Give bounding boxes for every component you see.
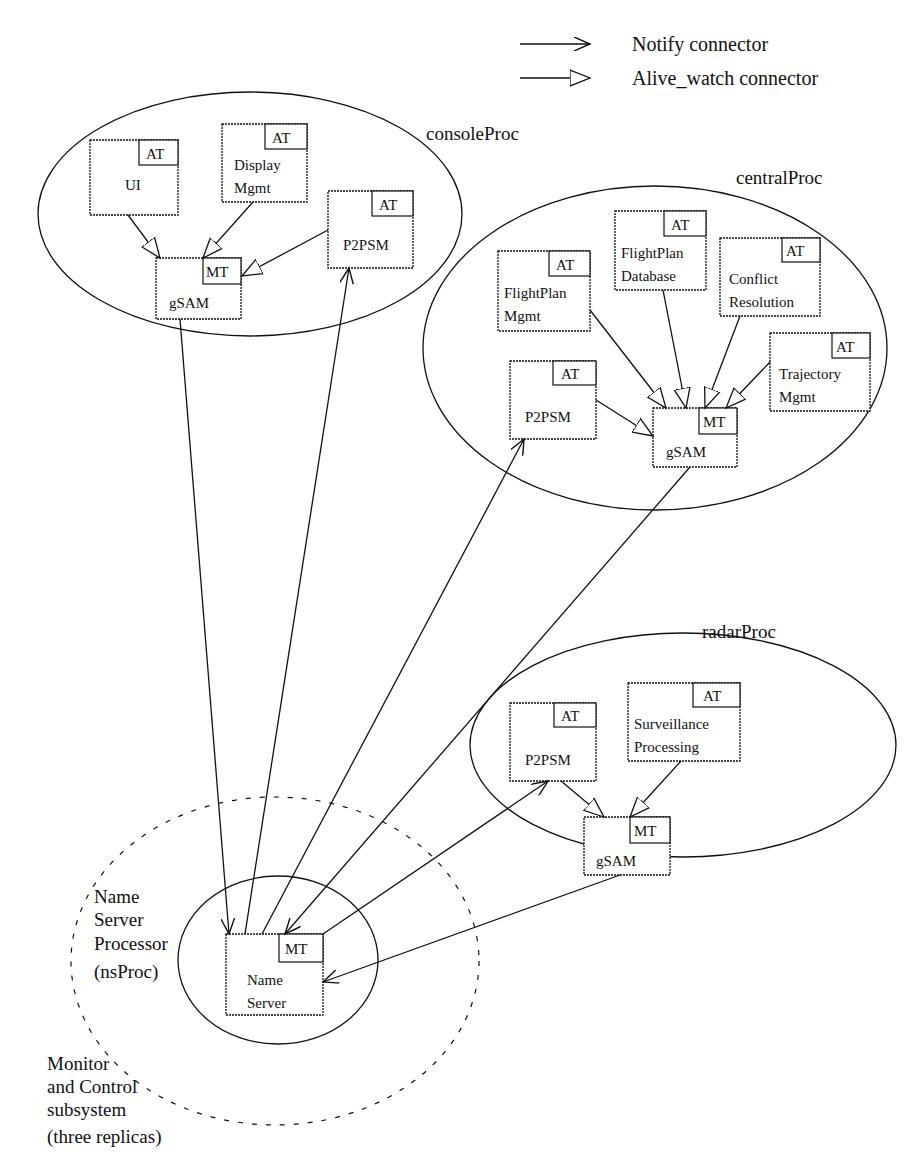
svg-text:UI: UI	[125, 177, 141, 193]
legend-alive-watch-label: Alive_watch connector	[632, 67, 818, 89]
radar-proc-label: radarProc	[702, 621, 776, 642]
svg-text:Monitor: Monitor	[47, 1053, 110, 1074]
svg-text:P2PSM: P2PSM	[525, 409, 571, 425]
svg-text:FlightPlan: FlightPlan	[621, 245, 684, 261]
svg-text:and Control: and Control	[47, 1076, 137, 1097]
svg-text:Name: Name	[247, 972, 283, 988]
central-trajectory-mgmt-component: AT Trajectory Mgmt	[770, 333, 870, 411]
svg-text:Name: Name	[94, 886, 139, 907]
svg-text:AT: AT	[561, 708, 579, 724]
legend-notify-label: Notify connector	[632, 33, 768, 56]
svg-text:gSAM: gSAM	[596, 853, 636, 869]
svg-text:AT: AT	[561, 366, 579, 382]
console-ui-component: AT UI	[90, 140, 178, 215]
central-p2psm-component: AT P2PSM	[510, 361, 596, 439]
svg-text:gSAM: gSAM	[666, 444, 706, 460]
subsystem-label: Monitor and Control subsystem (three rep…	[47, 1053, 161, 1148]
svg-text:gSAM: gSAM	[169, 295, 209, 311]
svg-text:Resolution: Resolution	[729, 294, 795, 310]
svg-text:(nsProc): (nsProc)	[94, 961, 158, 983]
console-gsam-component: MT gSAM	[156, 258, 241, 319]
svg-text:Server: Server	[94, 909, 144, 930]
svg-text:Mgmt: Mgmt	[779, 389, 817, 405]
svg-text:AT: AT	[146, 146, 164, 162]
architecture-diagram: Notify connector Alive_watch connector c…	[0, 0, 921, 1169]
svg-text:Database: Database	[621, 268, 676, 284]
central-gsam-component: MT gSAM	[653, 408, 737, 467]
svg-text:Conflict: Conflict	[729, 271, 779, 287]
svg-text:Processing: Processing	[634, 739, 699, 755]
svg-text:Trajectory: Trajectory	[779, 366, 841, 382]
central-proc-label: centralProc	[736, 167, 823, 188]
name-server-component: MT Name Server	[226, 934, 323, 1015]
svg-text:Mgmt: Mgmt	[234, 180, 272, 196]
svg-text:AT: AT	[556, 257, 574, 273]
svg-text:Mgmt: Mgmt	[504, 308, 542, 324]
console-p2psm-component: AT P2PSM	[328, 191, 413, 268]
legend: Notify connector Alive_watch connector	[520, 33, 818, 89]
svg-text:AT: AT	[671, 217, 689, 233]
svg-text:AT: AT	[379, 197, 397, 213]
svg-text:P2PSM: P2PSM	[343, 237, 389, 253]
svg-text:MT: MT	[634, 823, 657, 839]
svg-text:AT: AT	[836, 339, 854, 355]
svg-text:Surveillance: Surveillance	[634, 716, 709, 732]
svg-text:AT: AT	[786, 243, 804, 259]
svg-text:AT: AT	[703, 688, 721, 704]
console-proc-label: consoleProc	[426, 123, 519, 144]
svg-text:Server: Server	[247, 995, 286, 1011]
radar-gsam-component: MT gSAM	[584, 817, 670, 875]
svg-text:Display: Display	[234, 157, 281, 173]
console-display-mgmt-component: AT Display Mgmt	[222, 124, 307, 202]
svg-text:subsystem: subsystem	[47, 1099, 126, 1120]
radar-surveillance-component: AT Surveillance Processing	[628, 683, 740, 761]
svg-text:(three replicas): (three replicas)	[47, 1126, 161, 1148]
svg-text:Processor: Processor	[94, 933, 169, 954]
ns-proc-label: Name Server Processor (nsProc)	[94, 886, 169, 983]
svg-text:P2PSM: P2PSM	[525, 752, 571, 768]
central-fp-database-component: AT FlightPlan Database	[615, 211, 706, 290]
svg-text:AT: AT	[272, 130, 290, 146]
svg-text:MT: MT	[703, 414, 726, 430]
svg-text:FlightPlan: FlightPlan	[504, 285, 567, 301]
svg-text:MT: MT	[206, 264, 229, 280]
central-fp-mgmt-component: AT FlightPlan Mgmt	[498, 251, 590, 331]
svg-text:MT: MT	[285, 941, 308, 957]
radar-p2psm-component: AT P2PSM	[510, 703, 596, 781]
central-conflict-resolution-component: AT Conflict Resolution	[720, 238, 820, 316]
